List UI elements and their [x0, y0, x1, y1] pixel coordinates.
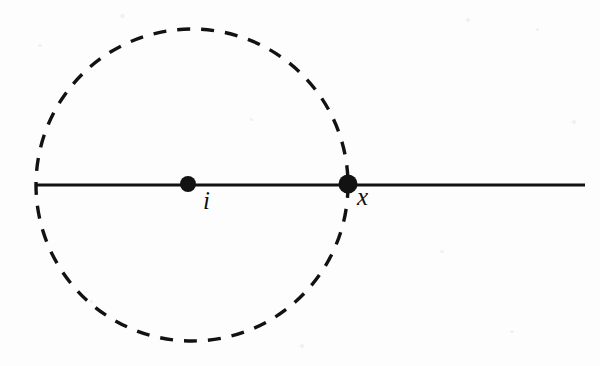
point-marker-x	[339, 175, 358, 194]
point-marker-i	[180, 176, 196, 192]
figure-container: i x	[0, 0, 600, 366]
diagram-svg	[0, 0, 600, 366]
point-label-x: x	[357, 184, 368, 209]
point-label-i: i	[203, 188, 210, 213]
